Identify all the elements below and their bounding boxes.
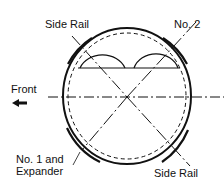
label-no2: No. 2 <box>174 18 200 30</box>
valve-recess-left <box>80 55 125 68</box>
label-no1-line1: No. 1 and <box>16 153 64 165</box>
leader-no1 <box>73 152 80 165</box>
diagonal-no1 <box>82 97 127 150</box>
label-no1-line2: Expander <box>16 165 63 177</box>
gap-mark-bottom-right <box>162 130 188 162</box>
label-front: Front <box>11 83 37 95</box>
valve-recess-right <box>134 54 178 68</box>
arrow-left-icon <box>12 99 27 107</box>
label-side-rail-top: Side Rail <box>45 18 89 30</box>
label-side-rail-bottom: Side Rail <box>154 167 198 179</box>
